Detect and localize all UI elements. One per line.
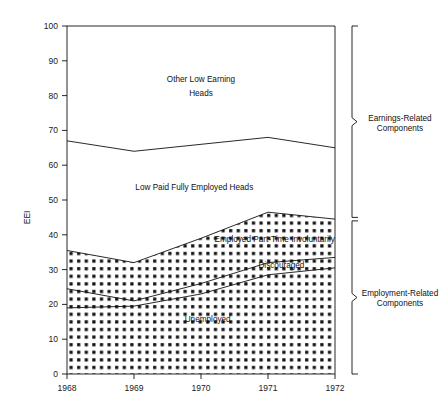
y-tick-label: 20	[49, 299, 59, 309]
area-series-label: Heads	[189, 89, 213, 98]
area-series-label: Low Paid Fully Employed Heads	[135, 183, 253, 192]
y-tick-label: 90	[49, 56, 59, 66]
boundary-other-low-earning-heads	[67, 137, 335, 151]
x-tick-label: 1968	[58, 383, 77, 393]
area-series-label: Employed Part-Time Involuntarily	[215, 235, 336, 244]
y-tick-label: 30	[49, 265, 59, 275]
eei-stacked-area-chart: 0102030405060708090100 19681969197019711…	[0, 0, 446, 418]
x-tick-label: 1969	[125, 383, 144, 393]
bracket-shape	[352, 26, 358, 217]
y-axis-title: EEI	[22, 211, 32, 225]
bracket-label-line2: Components	[377, 299, 423, 308]
y-tick-label: 0	[53, 369, 58, 379]
area-series-label: Discouraged	[258, 261, 304, 270]
bracket-label-line1: Employment-Related	[362, 289, 439, 298]
y-axis-tick-labels: 0102030405060708090100	[44, 21, 58, 379]
y-tick-label: 80	[49, 91, 59, 101]
component-brackets: Earnings-RelatedComponentsEmployment-Rel…	[352, 26, 439, 374]
y-tick-label: 100	[44, 21, 58, 31]
area-series-label: Other Low Earning	[167, 75, 236, 84]
bracket-label-line2: Components	[377, 124, 423, 133]
y-tick-label: 10	[49, 334, 59, 344]
x-tick-label: 1970	[192, 383, 211, 393]
y-tick-label: 70	[49, 125, 59, 135]
bracket-shape	[352, 221, 358, 374]
x-axis-tick-labels: 19681969197019711972	[58, 383, 345, 393]
x-tick-label: 1971	[259, 383, 278, 393]
bracket-label-line1: Earnings-Related	[368, 114, 432, 123]
x-tick-label: 1972	[326, 383, 345, 393]
y-tick-label: 50	[49, 195, 59, 205]
area-series-label: Unemployed	[185, 315, 231, 324]
y-axis-title-text: EEI	[22, 211, 32, 225]
y-tick-label: 40	[49, 230, 59, 240]
y-tick-label: 60	[49, 160, 59, 170]
chart-canvas: 0102030405060708090100 19681969197019711…	[0, 0, 446, 418]
